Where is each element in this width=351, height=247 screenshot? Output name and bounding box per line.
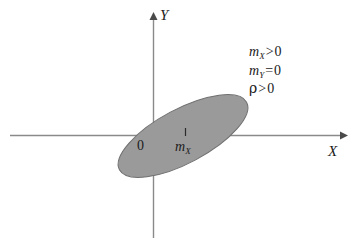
x-axis-label: X	[328, 144, 337, 159]
annotation-mean-x-variable: m	[249, 44, 259, 59]
mx-tick-label-subscript: X	[185, 146, 191, 156]
annotation-correlation-operator: >	[257, 81, 267, 96]
y-axis-arrowhead	[150, 12, 158, 20]
annotation-mean-x: mX>0	[249, 44, 282, 61]
annotation-mean-y-operator: =	[264, 63, 274, 78]
annotation-mean-y: mY=0	[249, 63, 282, 80]
annotation-block: mX>0 mY=0 ρ>0	[249, 44, 282, 97]
y-axis-label: Y	[160, 8, 168, 23]
annotation-mean-y-value: 0	[274, 63, 281, 78]
annotation-correlation: ρ>0	[249, 81, 282, 97]
annotation-mean-x-value: 0	[275, 44, 282, 59]
x-axis-arrowhead	[340, 132, 348, 140]
annotation-correlation-value: 0	[267, 81, 274, 96]
annotation-mean-x-subscript: X	[259, 51, 265, 61]
mx-tick-label: mX	[175, 140, 191, 156]
mx-tick-label-main: m	[175, 139, 185, 154]
figure-container: Y X 0 mX mX>0 mY=0 ρ>0	[0, 0, 351, 247]
annotation-correlation-variable: ρ	[249, 80, 257, 96]
annotation-mean-x-operator: >	[265, 44, 275, 59]
origin-label: 0	[137, 139, 144, 153]
annotation-mean-y-variable: m	[249, 63, 259, 78]
plot-canvas	[0, 0, 351, 247]
